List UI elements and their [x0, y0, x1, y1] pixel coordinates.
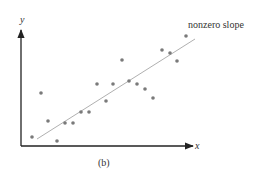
figure-caption: (b): [98, 158, 110, 168]
data-point: [151, 96, 155, 100]
data-point: [111, 82, 115, 86]
data-point: [104, 99, 108, 103]
data-point: [160, 48, 164, 52]
data-point: [55, 139, 59, 143]
data-point: [135, 82, 139, 86]
data-point: [30, 135, 34, 139]
data-point: [143, 87, 147, 91]
data-point: [184, 34, 188, 38]
data-point: [46, 119, 50, 123]
axes: [21, 30, 193, 146]
data-point: [63, 121, 67, 125]
data-point: [71, 121, 75, 125]
data-point: [87, 110, 91, 114]
data-point: [95, 82, 99, 86]
data-point: [79, 110, 83, 114]
y-axis-label: y: [20, 15, 24, 25]
x-axis-label: x: [195, 141, 199, 151]
data-point: [175, 59, 179, 63]
scatter-figure: y x nonzero slope (b): [0, 0, 259, 183]
data-point: [168, 51, 172, 55]
data-point: [120, 58, 124, 62]
data-point: [127, 79, 131, 83]
data-point: [39, 91, 43, 95]
trend-line-label: nonzero slope: [188, 20, 244, 30]
data-points: [30, 34, 188, 143]
